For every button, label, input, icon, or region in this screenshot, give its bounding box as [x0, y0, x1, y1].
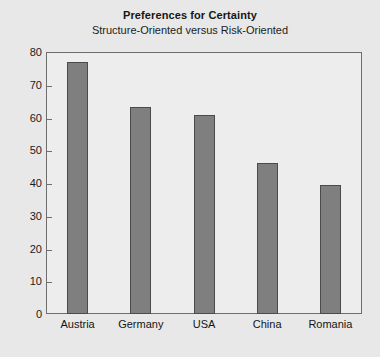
y-tick-label: 30	[0, 210, 42, 221]
bar	[67, 62, 88, 314]
y-tick-label: 70	[0, 79, 42, 90]
y-tick-label: 80	[0, 47, 42, 58]
y-tick-label: 0	[0, 309, 42, 320]
x-tick-label: Romania	[308, 318, 352, 331]
bars-layer	[46, 52, 362, 314]
y-tick-label: 40	[0, 178, 42, 189]
bar	[320, 185, 341, 314]
y-axis: 80706050403020100	[0, 52, 42, 314]
bar	[194, 115, 215, 314]
bar-chart: Preferences for Certainty Structure-Orie…	[0, 0, 380, 357]
bar	[130, 107, 151, 314]
chart-title: Preferences for Certainty	[0, 9, 380, 22]
y-tick-label: 60	[0, 112, 42, 123]
x-axis: AustriaGermanyUSAChinaRomania	[46, 318, 362, 336]
bar	[257, 163, 278, 314]
chart-subtitle: Structure-Oriented versus Risk-Oriented	[0, 23, 380, 37]
cropped-caption-artifact	[0, 343, 380, 357]
chart-title-block: Preferences for Certainty Structure-Orie…	[0, 9, 380, 37]
y-tick-label: 10	[0, 276, 42, 287]
x-tick-label: Germany	[118, 318, 163, 331]
y-tick-label: 20	[0, 243, 42, 254]
x-tick-label: China	[253, 318, 282, 331]
y-tick-label: 50	[0, 145, 42, 156]
x-tick-label: USA	[193, 318, 216, 331]
x-tick-label: Austria	[60, 318, 94, 331]
